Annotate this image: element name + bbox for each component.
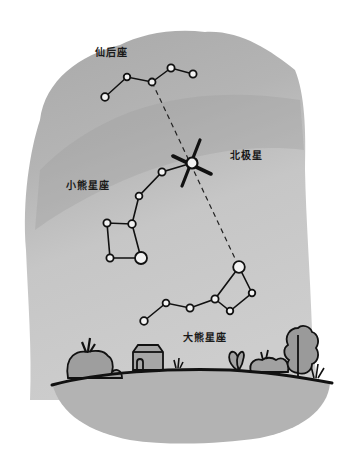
star [158,168,165,175]
star [186,304,193,311]
star [249,290,256,297]
star [233,261,245,273]
ground [52,370,330,443]
star [149,79,156,86]
star [124,74,131,81]
star [189,70,196,77]
house [133,345,163,370]
star [103,219,110,226]
star [135,252,147,264]
cassiopeia-label: 仙后座 [95,46,128,58]
star [167,64,174,71]
star [106,254,113,261]
ursa-minor-label: 小熊星座 [65,179,110,191]
star [140,317,148,325]
star [211,295,218,302]
polaris-label: 北极星 [230,149,263,161]
star [101,93,109,101]
sky-wash [25,31,320,400]
star [136,193,143,200]
star-map-illustration: 仙后座 北极星 小熊星座 大熊星座 [0,0,350,461]
ursa-major-label: 大熊星座 [183,331,227,343]
star [128,220,136,228]
star [227,308,234,315]
star [163,300,170,307]
